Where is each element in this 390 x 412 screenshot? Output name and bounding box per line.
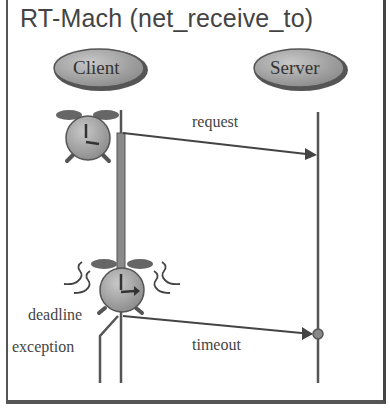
request-arrow bbox=[123, 133, 317, 160]
client-lifeline bbox=[117, 110, 125, 383]
server-label: Server bbox=[270, 57, 320, 79]
timeout-label: timeout bbox=[192, 336, 241, 354]
request-label: request bbox=[192, 113, 238, 131]
deadline-label: deadline bbox=[28, 306, 82, 324]
exception-branch bbox=[100, 316, 118, 383]
exception-label: exception bbox=[12, 338, 74, 356]
alarm-clock-icon bbox=[56, 110, 119, 161]
client-label: Client bbox=[73, 57, 119, 79]
